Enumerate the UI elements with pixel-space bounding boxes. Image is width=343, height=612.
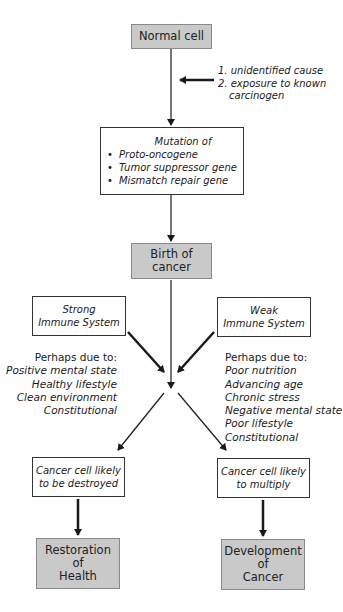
strong-factor: Constitutional: [6, 404, 117, 417]
weak-label-line1: Weak: [250, 304, 278, 317]
weak-factors: Perhaps due to: Poor nutrition Advancing…: [225, 351, 342, 444]
strong-factor: Clean environment: [6, 391, 117, 404]
weak-label-line2: Immune System: [223, 317, 305, 330]
strong-factor: Positive mental state: [6, 364, 117, 377]
mutation-item: Mismatch repair gene: [107, 174, 237, 187]
normal-cell-label: Normal cell: [139, 30, 204, 43]
weak-factor: Negative mental state: [225, 404, 342, 417]
normal-cell-box: Normal cell: [131, 24, 212, 49]
destroyed-line1: Cancer cell likely: [36, 464, 121, 477]
mutation-list: Proto-oncogene Tumor suppressor gene Mis…: [107, 148, 237, 187]
weak-factors-heading: Perhaps due to:: [225, 351, 342, 364]
weak-factor: Constitutional: [225, 431, 342, 444]
cause-2: 2. exposure to known: [218, 78, 326, 91]
strong-factor: Healthy lifestyle: [6, 378, 117, 391]
development-line3: Cancer: [243, 571, 284, 584]
restoration-line3: Health: [59, 570, 97, 583]
weak-factor: Poor nutrition: [225, 364, 342, 377]
cause-list: 1. unidentified cause 2. exposure to kno…: [218, 65, 326, 103]
cause-2-cont: carcinogen: [218, 90, 326, 103]
strong-factors-heading: Perhaps due to:: [6, 351, 117, 364]
birth-label-line2: cancer: [152, 261, 191, 274]
weak-immune-box: Weak Immune System: [217, 297, 311, 337]
multiply-line2: to multiply: [237, 478, 291, 491]
weak-factor: Advancing age: [225, 378, 342, 391]
strong-label-line1: Strong: [62, 303, 95, 316]
mutation-title: Mutation of: [155, 135, 212, 148]
strong-immune-box: Strong Immune System: [32, 296, 126, 336]
weak-factor: Poor lifestyle: [225, 417, 342, 430]
development-of-cancer-box: Development of Cancer: [221, 539, 305, 590]
destroyed-line2: to be destroyed: [39, 477, 118, 490]
mutation-item: Proto-oncogene: [107, 148, 237, 161]
mutation-item: Tumor suppressor gene: [107, 161, 237, 174]
weak-factor: Chronic stress: [225, 391, 342, 404]
multiply-line1: Cancer cell likely: [221, 465, 306, 478]
strong-label-line2: Immune System: [38, 316, 120, 329]
likely-multiply-box: Cancer cell likely to multiply: [217, 458, 310, 498]
cause-1: 1. unidentified cause: [218, 65, 326, 78]
birth-of-cancer-box: Birth of cancer: [131, 243, 212, 279]
restoration-of-health-box: Restoration of Health: [36, 538, 120, 589]
likely-destroyed-box: Cancer cell likely to be destroyed: [32, 457, 125, 497]
strong-factors: Perhaps due to: Positive mental state He…: [6, 351, 117, 417]
mutation-box: Mutation of Proto-oncogene Tumor suppres…: [100, 127, 244, 195]
